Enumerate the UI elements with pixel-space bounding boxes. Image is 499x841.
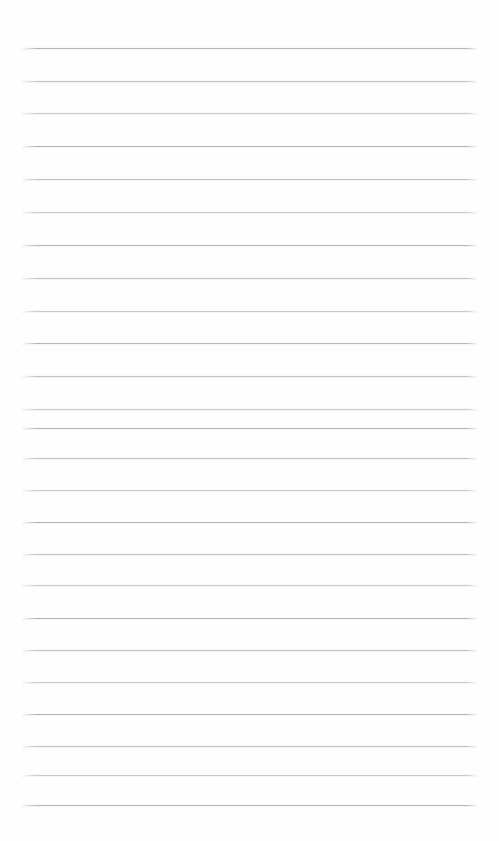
- ruled-line: [22, 775, 477, 776]
- ruled-line: [22, 585, 477, 586]
- ruled-line: [22, 48, 477, 49]
- ruled-line: [22, 113, 477, 114]
- ruled-line: [22, 458, 477, 459]
- ruled-line: [22, 618, 477, 619]
- ruled-line: [22, 805, 477, 806]
- ruled-line: [22, 682, 477, 683]
- ruled-line: [22, 428, 477, 429]
- ruled-line: [22, 376, 477, 377]
- ruled-line: [22, 81, 477, 82]
- ruled-line: [22, 714, 477, 715]
- ruled-line: [22, 278, 477, 279]
- ruled-line: [22, 746, 477, 747]
- ruled-line: [22, 554, 477, 555]
- ruled-line: [22, 146, 477, 147]
- ruled-lines-layer: [0, 0, 499, 841]
- ruled-line: [22, 311, 477, 312]
- lined-paper-sheet: [0, 0, 499, 841]
- ruled-line: [22, 212, 477, 213]
- ruled-line: [22, 490, 477, 491]
- ruled-line: [22, 650, 477, 651]
- ruled-line: [22, 179, 477, 180]
- ruled-line: [22, 343, 477, 344]
- ruled-line: [22, 409, 477, 410]
- ruled-line: [22, 245, 477, 246]
- ruled-line: [22, 522, 477, 523]
